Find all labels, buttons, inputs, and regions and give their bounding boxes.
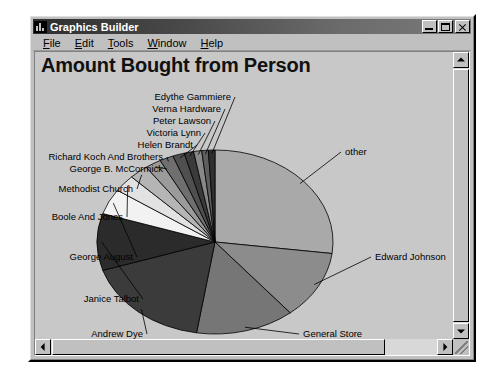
scroll-right-arrow-icon[interactable] xyxy=(437,339,453,355)
pie-slice-label: George B. McCormick xyxy=(70,163,164,174)
pie-slice-label: Edward Johnson xyxy=(375,251,446,262)
scroll-up-arrow-icon[interactable] xyxy=(453,52,469,68)
maximize-button[interactable] xyxy=(438,20,453,33)
pie-slice-label: Andrew Dye xyxy=(91,328,143,339)
pie-slice-label: General Store xyxy=(303,328,362,339)
menu-bar: File Edit Tools Window Help xyxy=(33,35,471,51)
minimize-button[interactable] xyxy=(422,20,437,33)
pie-slice-label: Victoria Lynn xyxy=(147,127,201,138)
menu-item-edit[interactable]: Edit xyxy=(68,36,101,50)
menu-item-window[interactable]: Window xyxy=(140,36,193,50)
label-leader-line xyxy=(245,327,299,334)
pie-slice-label: Verna Hardware xyxy=(152,103,221,114)
pie-slice-label: Edythe Gammiere xyxy=(154,91,231,102)
label-leader-line xyxy=(300,152,341,184)
horizontal-scroll-thumb[interactable] xyxy=(52,339,385,355)
pie-slice xyxy=(215,150,333,254)
vertical-scroll-thumb[interactable] xyxy=(453,69,469,322)
application-window: Graphics Builder File Edit Tools Window … xyxy=(28,14,476,362)
window-inner-frame: Graphics Builder File Edit Tools Window … xyxy=(30,16,474,360)
pie-slice-label: Helen Brandt xyxy=(138,139,194,150)
pie-slice-label: George August xyxy=(70,251,134,262)
scroll-left-arrow-icon[interactable] xyxy=(35,339,51,355)
chart-canvas[interactable]: Amount Bought from Person otherEdward Jo… xyxy=(35,52,453,339)
window-controls xyxy=(421,20,471,33)
close-button[interactable] xyxy=(455,20,470,33)
vertical-scrollbar[interactable] xyxy=(453,52,469,339)
resize-grip[interactable] xyxy=(453,339,469,355)
pie-slice-label: Richard Koch And Brothers xyxy=(48,151,163,162)
menu-item-help[interactable]: Help xyxy=(194,36,231,50)
menu-item-tools[interactable]: Tools xyxy=(101,36,141,50)
client-area: Amount Bought from Person otherEdward Jo… xyxy=(34,51,470,356)
menu-item-file[interactable]: File xyxy=(36,36,68,50)
scroll-down-arrow-icon[interactable] xyxy=(453,323,469,339)
pie-slice-label: Methodist Church xyxy=(59,183,133,194)
screen: Graphics Builder File Edit Tools Window … xyxy=(0,0,496,379)
pie-slice-label: Janice Talbot xyxy=(84,293,140,304)
chart-bars-icon xyxy=(34,21,47,33)
pie-chart: otherEdward JohnsonGeneral StoreAndrew D… xyxy=(35,52,453,339)
pie-slice-label: other xyxy=(345,146,367,157)
window-title: Graphics Builder xyxy=(50,21,139,33)
title-bar[interactable]: Graphics Builder xyxy=(33,19,471,34)
horizontal-scrollbar[interactable] xyxy=(35,339,453,355)
pie-slice-label: Boole And Jones xyxy=(52,211,124,222)
pie-slice-label: Peter Lawson xyxy=(153,115,211,126)
